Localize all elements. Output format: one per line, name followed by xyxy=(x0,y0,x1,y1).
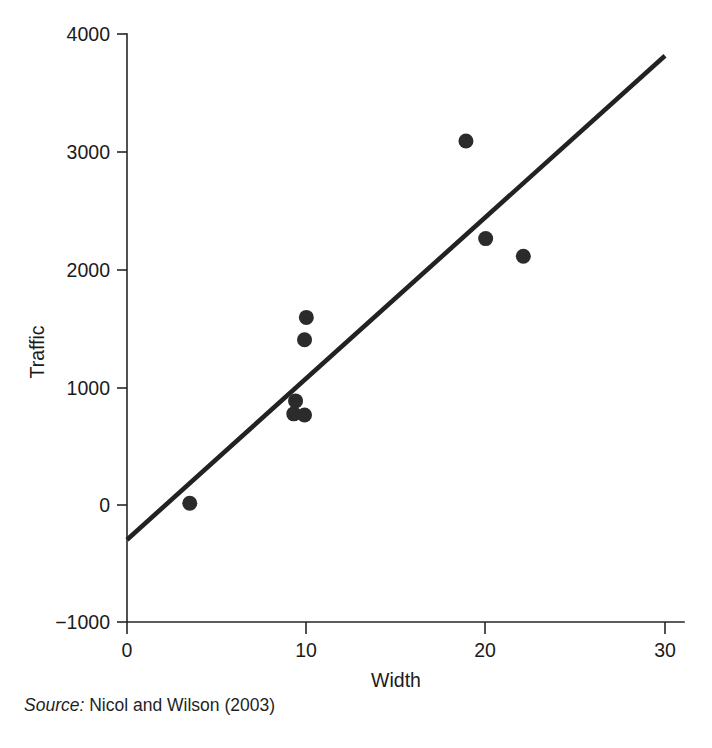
data-point xyxy=(299,310,314,325)
source-note: Source: Nicol and Wilson (2003) xyxy=(24,694,275,716)
data-point xyxy=(288,393,303,408)
y-tick-label-3000: 3000 xyxy=(67,141,111,163)
plot-canvas: 4000 3000 2000 1000 0 −1000 0 10 20 30 W… xyxy=(0,0,712,700)
data-point xyxy=(516,249,531,264)
x-tick-group xyxy=(127,622,665,634)
y-tick-label-0: 0 xyxy=(99,494,110,516)
axes-group xyxy=(127,34,684,622)
x-tick-labels: 0 10 20 30 xyxy=(122,639,676,661)
regression-line xyxy=(127,56,665,540)
data-point xyxy=(478,231,493,246)
data-point xyxy=(297,408,312,423)
scatter-plot-figure: 4000 3000 2000 1000 0 −1000 0 10 20 30 W… xyxy=(0,0,712,748)
data-point xyxy=(182,496,197,511)
source-label: Source: xyxy=(24,695,84,715)
x-tick-label-20: 20 xyxy=(474,639,496,661)
x-tick-label-10: 10 xyxy=(295,639,317,661)
y-axis-title: Traffic xyxy=(26,325,48,378)
data-points-group xyxy=(182,134,531,511)
data-point xyxy=(297,332,312,347)
y-tick-label-4000: 4000 xyxy=(67,23,111,45)
x-axis-title: Width xyxy=(371,669,421,691)
y-tick-label-2000: 2000 xyxy=(67,259,111,281)
x-tick-label-30: 30 xyxy=(654,639,676,661)
x-tick-label-0: 0 xyxy=(122,639,133,661)
y-tick-group xyxy=(117,34,127,622)
y-tick-label-1000: 1000 xyxy=(67,377,111,399)
data-point xyxy=(458,134,473,149)
y-tick-label--1000: −1000 xyxy=(55,611,110,633)
y-tick-labels: 4000 3000 2000 1000 0 −1000 xyxy=(55,23,110,633)
source-citation: Nicol and Wilson (2003) xyxy=(89,695,275,715)
